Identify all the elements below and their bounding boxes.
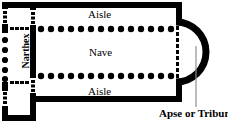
- portico-column: [2, 37, 8, 43]
- wall-right-lower: [176, 80, 182, 102]
- nave-column: [98, 73, 104, 79]
- portico-column: [2, 76, 8, 82]
- nave-column: [158, 26, 164, 32]
- portico-column: [2, 47, 8, 53]
- label-aisle-bottom: Aisle: [88, 86, 111, 97]
- nave-column: [168, 73, 174, 79]
- nave-column: [128, 26, 134, 32]
- label-aisle-top: Aisle: [88, 9, 111, 20]
- apse-semicircle-wall: [176, 22, 206, 82]
- narthex-outer-pier-lower: [2, 82, 8, 91]
- nave-column: [98, 26, 104, 32]
- narthex-inner-opening-lower: [31, 80, 35, 92]
- nave-column: [118, 26, 124, 32]
- nave-column: [108, 26, 114, 32]
- nave-column: [58, 73, 64, 79]
- colonnade-top-row: [38, 26, 174, 32]
- apse-group: [176, 22, 206, 82]
- portico-columns: [2, 37, 8, 82]
- nave-column: [68, 26, 74, 32]
- nave-column: [148, 26, 154, 32]
- nave-column: [138, 73, 144, 79]
- nave-column: [118, 73, 124, 79]
- narthex-inner-opening-upper: [31, 12, 35, 24]
- nave-column: [138, 26, 144, 32]
- nave-column: [78, 73, 84, 79]
- narthex-wall-bottom: [2, 115, 32, 121]
- portico-column: [2, 57, 8, 63]
- nave-column: [38, 26, 44, 32]
- basilica-floor-plan-diagram: Aisle Nave Aisle Narthex Apse or Tribune: [0, 0, 228, 123]
- floor-plan-drawing: [0, 0, 228, 123]
- narthex-doorway-lower: [10, 81, 29, 84]
- narthex-inner-wall-bottom: [30, 93, 36, 121]
- narthex-outer-opening-upper: [3, 11, 7, 23]
- nave-column: [128, 73, 134, 79]
- nave-column: [48, 26, 54, 32]
- apse-chord-opening: [176, 26, 179, 78]
- nave-column: [38, 73, 44, 79]
- narthex-outer-pier-upper: [2, 24, 8, 33]
- nave-column: [148, 73, 154, 79]
- label-apse-or-tribune: Apse or Tribune: [159, 108, 228, 119]
- nave-column: [88, 73, 94, 79]
- nave-column: [68, 73, 74, 79]
- portico-column: [2, 67, 8, 73]
- wall-right-upper: [176, 2, 182, 24]
- label-narthex: Narthex: [21, 21, 31, 81]
- nave-column: [168, 26, 174, 32]
- nave-column: [58, 26, 64, 32]
- nave-column: [48, 73, 54, 79]
- narthex-wall-top: [2, 2, 32, 8]
- nave-column: [108, 73, 114, 79]
- label-nave: Nave: [89, 47, 112, 58]
- nave-column: [78, 26, 84, 32]
- narthex-inner-wall-top: [30, 2, 36, 10]
- nave-column: [88, 26, 94, 32]
- narthex-outer-opening-lower: [3, 92, 7, 104]
- nave-column: [158, 73, 164, 79]
- colonnade-bottom-row: [38, 73, 174, 79]
